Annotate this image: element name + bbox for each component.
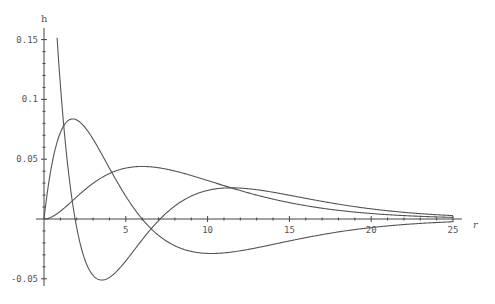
x-tick-label: 15 [284, 225, 295, 235]
x-tick-label: 10 [202, 225, 213, 235]
y-tick-label: 0.05 [16, 154, 38, 164]
curve-2 [44, 119, 453, 254]
chart-axes [36, 28, 462, 286]
curve-1 [57, 38, 453, 280]
y-tick-label: -0.05 [11, 274, 38, 284]
y-tick-label: 0.15 [16, 35, 38, 45]
axis-ticks: 510152025-0.050.050.10.15 [11, 35, 459, 284]
x-axis-label: r [473, 219, 479, 230]
y-tick-label: 0.1 [22, 94, 38, 104]
x-tick-label: 5 [123, 225, 128, 235]
chart-curves [44, 38, 453, 280]
x-tick-label: 20 [366, 225, 377, 235]
line-chart: 510152025-0.050.050.10.15 h r [0, 0, 495, 304]
x-tick-label: 25 [448, 225, 459, 235]
y-axis-label: h [41, 13, 48, 24]
